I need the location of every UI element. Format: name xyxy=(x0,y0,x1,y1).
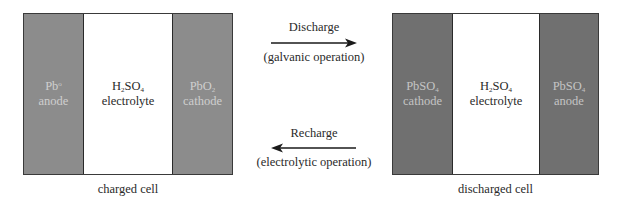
charged-cell: Pbo anode H2SO4 electrolyte PbO2 cathode xyxy=(23,13,233,175)
electrolyte-formula: H2SO4 xyxy=(112,79,144,94)
formula-text: SO xyxy=(493,79,509,93)
formula-sub: 4 xyxy=(509,86,513,94)
galvanic-sublabel: (galvanic operation) xyxy=(250,50,378,65)
formula-text: H xyxy=(480,79,489,93)
electrolytic-sublabel: (electrolytic operation) xyxy=(250,155,378,170)
electrolyte-label: electrolyte xyxy=(102,94,155,109)
anode-formula: PbSO4 xyxy=(553,79,586,94)
discharged-electrolyte: H2SO4 electrolyte xyxy=(453,14,540,174)
electrolyte-label: electrolyte xyxy=(470,94,523,109)
discharged-cell-caption: discharged cell xyxy=(392,182,599,197)
formula-text: PbSO xyxy=(406,79,435,93)
left-arrow-icon xyxy=(271,143,357,153)
cathode-formula: PbSO4 xyxy=(406,79,439,94)
discharged-anode: PbSO4 anode xyxy=(540,14,598,174)
charged-cell-caption: charged cell xyxy=(23,182,233,197)
cathode-label: cathode xyxy=(183,94,222,109)
formula-text: PbO xyxy=(190,79,212,93)
anode-label: anode xyxy=(554,94,584,109)
formula-sub: 4 xyxy=(582,86,586,94)
formula-sub: 2 xyxy=(212,86,216,94)
formula-text: H xyxy=(112,79,121,93)
formula-sup: o xyxy=(58,80,62,88)
anode-label: anode xyxy=(39,94,69,109)
formula-sub: 4 xyxy=(435,86,439,94)
formula-text: Pb xyxy=(45,79,58,93)
formula-text: SO xyxy=(125,79,141,93)
formula-sub: 4 xyxy=(141,86,145,94)
discharged-cathode: PbSO4 cathode xyxy=(393,14,453,174)
charged-electrolyte: H2SO4 electrolyte xyxy=(84,14,173,174)
formula-text: PbSO xyxy=(553,79,582,93)
charged-anode: Pbo anode xyxy=(24,14,84,174)
cathode-formula: PbO2 xyxy=(190,79,216,94)
anode-formula: Pbo xyxy=(45,79,62,94)
cathode-label: cathode xyxy=(403,94,442,109)
discharged-cell: PbSO4 cathode H2SO4 electrolyte PbSO4 an… xyxy=(392,13,599,175)
electrolyte-formula: H2SO4 xyxy=(480,79,512,94)
charged-cathode: PbO2 cathode xyxy=(173,14,232,174)
right-arrow-icon xyxy=(271,38,357,48)
discharge-label: Discharge xyxy=(250,20,378,35)
recharge-label: Recharge xyxy=(250,126,378,141)
